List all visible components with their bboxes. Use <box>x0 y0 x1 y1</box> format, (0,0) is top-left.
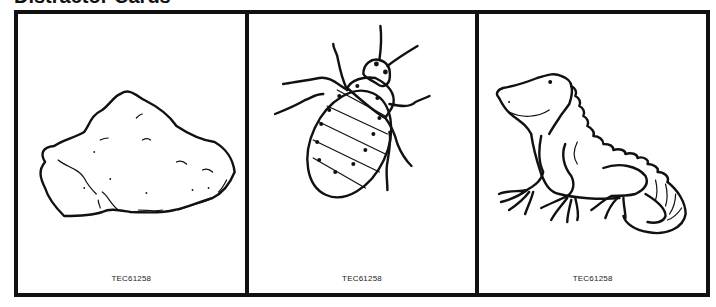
iguana-icon <box>479 14 706 293</box>
card-code: TEC61258 <box>18 274 245 283</box>
bug-icon <box>249 14 476 293</box>
card-sheet: TEC61258 <box>14 10 710 297</box>
card-code: TEC61258 <box>479 274 706 283</box>
card-rock[interactable]: TEC61258 <box>18 14 245 293</box>
rock-icon <box>18 14 245 293</box>
page-title: Distractor Cards <box>14 0 171 6</box>
card-bug[interactable]: TEC61258 <box>245 14 476 293</box>
card-iguana[interactable]: TEC61258 <box>475 14 706 293</box>
card-code: TEC61258 <box>249 274 476 283</box>
